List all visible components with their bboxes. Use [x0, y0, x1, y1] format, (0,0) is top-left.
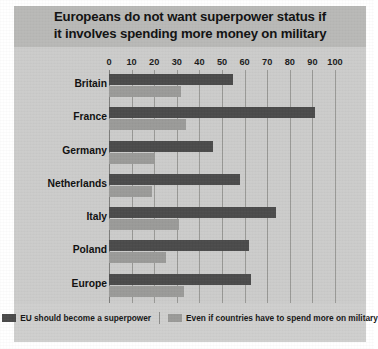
x-axis-tick-40: 40: [194, 57, 204, 67]
legend-swatch-series-2: [168, 314, 182, 322]
category-label-netherlands: Netherlands: [0, 178, 107, 189]
chart-title-line-1: Europeans do not want superpower status …: [14, 9, 366, 26]
chart-title: Europeans do not want superpower status …: [14, 9, 366, 42]
legend-divider: [159, 312, 160, 324]
category-label-britain: Britain: [0, 78, 107, 89]
x-axis-tick-50: 50: [217, 57, 227, 67]
bar-france-series-1: [109, 107, 315, 118]
category-label-germany: Germany: [0, 145, 107, 156]
bar-group-germany: Germany: [109, 140, 335, 173]
bar-netherlands-series-2: [109, 186, 152, 197]
legend-item-series-1: EU should become a superpower: [2, 313, 151, 323]
category-label-italy: Italy: [0, 211, 107, 222]
legend-swatch-series-1: [2, 314, 16, 322]
bar-group-france: France: [109, 106, 335, 139]
x-axis-tick-90: 90: [307, 57, 317, 67]
legend-item-series-2: Even if countries have to spend more on …: [168, 313, 378, 323]
chart-legend: EU should become a superpower Even if co…: [14, 303, 366, 342]
bar-group-italy: Italy: [109, 206, 335, 239]
bar-italy-series-2: [109, 219, 179, 230]
x-axis-tick-80: 80: [285, 57, 295, 67]
bar-poland-series-2: [109, 252, 166, 263]
bar-germany-series-1: [109, 141, 213, 152]
x-axis-tick-100: 100: [327, 57, 342, 67]
legend-label-series-1: EU should become a superpower: [20, 313, 151, 323]
x-axis-tick-0: 0: [106, 57, 111, 67]
chart-title-band: Europeans do not want superpower status …: [14, 6, 366, 48]
bar-group-britain: Britain: [109, 73, 335, 106]
category-label-france: France: [0, 111, 107, 122]
bar-group-netherlands: Netherlands: [109, 173, 335, 206]
x-axis-tick-20: 20: [149, 57, 159, 67]
legend-label-series-2: Even if countries have to spend more on …: [186, 313, 378, 323]
bar-europe-series-1: [109, 274, 251, 285]
bar-group-europe: Europe: [109, 273, 335, 306]
bar-poland-series-1: [109, 240, 249, 251]
bar-france-series-2: [109, 119, 186, 130]
bar-britain-series-2: [109, 86, 181, 97]
chart-title-line-2: it involves spending more money on milit…: [14, 26, 366, 43]
bar-germany-series-2: [109, 153, 154, 164]
bar-italy-series-1: [109, 207, 276, 218]
bar-group-poland: Poland: [109, 239, 335, 272]
category-label-poland: Poland: [0, 244, 107, 255]
x-axis-tick-labels: 0102030405060708090100: [0, 57, 374, 70]
bar-europe-series-2: [109, 286, 184, 297]
x-axis-tick-70: 70: [262, 57, 272, 67]
x-axis-tick-10: 10: [126, 57, 136, 67]
plot-area: BritainFranceGermanyNetherlandsItalyPola…: [109, 70, 335, 303]
category-label-europe: Europe: [0, 278, 107, 289]
gridline-100: [335, 70, 336, 303]
x-axis-tick-30: 30: [172, 57, 182, 67]
x-axis-tick-60: 60: [239, 57, 249, 67]
bar-netherlands-series-1: [109, 174, 240, 185]
bar-britain-series-1: [109, 74, 233, 85]
